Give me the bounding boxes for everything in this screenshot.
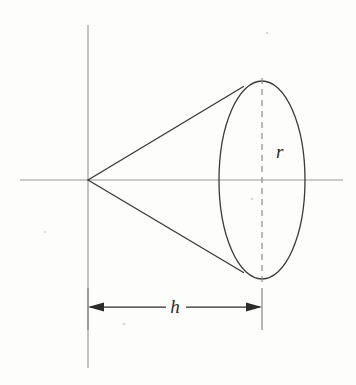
cone-diagram-canvas: r h [0,0,356,385]
paper-speckle-group [44,32,268,326]
dimension-arrow-right [246,303,262,312]
paper-speck [266,32,269,35]
cone-upper-slant-edge [88,87,244,181]
radius-label: r [276,141,284,162]
cone-diagram-figure: r h [0,0,356,385]
coordinate-axes [20,25,343,368]
paper-speck [123,323,126,326]
dimension-arrow-left [88,303,104,312]
cone-lower-slant-edge [88,180,244,273]
height-dimension: h [88,288,262,330]
paper-speck [44,231,46,233]
paper-speck [251,198,253,200]
height-label: h [170,296,180,317]
